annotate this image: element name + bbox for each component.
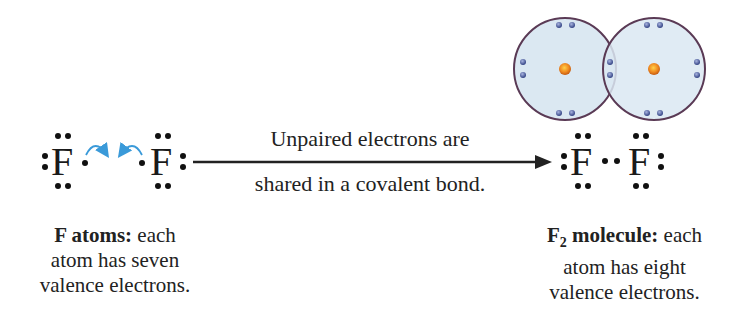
- right-nucleus: [648, 63, 660, 75]
- right-caption: F2 molecule: each atom has eight valence…: [512, 223, 737, 305]
- left-atom2-symbol: F: [150, 142, 172, 182]
- left-caption: F atoms: each atom has seven valence ele…: [20, 223, 210, 298]
- right-atom1-symbol: F: [570, 142, 592, 182]
- left-atom1-symbol: F: [51, 142, 73, 182]
- left-nucleus: [559, 63, 571, 75]
- right-atom2-symbol: F: [628, 142, 650, 182]
- right-caption-bold: F2 molecule:: [547, 223, 658, 247]
- arrow-label-top: Unpaired electrons are: [190, 126, 550, 152]
- curved-arrows-icon: [80, 135, 150, 165]
- reaction-arrow-icon: [190, 152, 555, 172]
- f2-orbital-model: [500, 0, 752, 130]
- arrow-label-bottom: shared in a covalent bond.: [190, 171, 550, 197]
- left-caption-bold: F atoms:: [54, 223, 132, 247]
